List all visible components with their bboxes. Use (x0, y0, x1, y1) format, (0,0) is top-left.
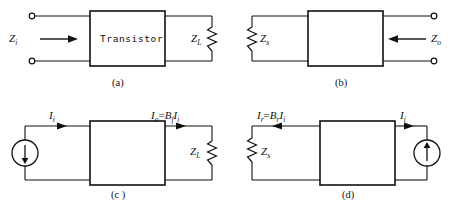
terminal-output-bottom (431, 58, 437, 64)
panel-b-schematic (232, 0, 463, 108)
terminal-input-top (29, 13, 35, 19)
two-port-box (90, 121, 165, 185)
resistor-zs-symbol (248, 27, 257, 51)
panel-b: Zs Zo (b) (232, 0, 463, 108)
label-ii: Ii (400, 110, 406, 124)
label-io-expression: Io=BfIi (151, 110, 179, 124)
panel-a-caption: (a) (112, 78, 124, 89)
arrow-zi (40, 35, 78, 43)
panel-a: Zi ZL Transistor (a) (0, 0, 231, 108)
label-zs: Zs (261, 146, 270, 160)
resistor-zl-symbol (208, 141, 217, 165)
terminal-output-top (431, 13, 437, 19)
label-zs: Zs (260, 33, 269, 47)
arrow-zo (388, 35, 426, 43)
terminal-input-bottom (29, 58, 35, 64)
arrow-ii (57, 123, 67, 130)
two-port-box (308, 11, 383, 66)
transistor-two-port-figure: Zi ZL Transistor (a) (0, 0, 463, 216)
panel-c-caption: (c ) (111, 190, 125, 201)
resistor-zs-symbol (248, 138, 257, 162)
label-zo: Zo (431, 33, 441, 47)
label-zl: ZL (191, 33, 201, 47)
panel-a-schematic (0, 0, 231, 108)
resistor-zl-symbol (208, 27, 217, 51)
label-ir-expression: Ir=BrIi (257, 110, 285, 124)
transistor-box-label: Transistor (100, 34, 163, 44)
panel-c: Ii Io=BfIi ZL (c ) (0, 108, 231, 216)
panel-d-caption: (d) (342, 190, 354, 201)
label-zi: Zi (9, 33, 17, 47)
label-zl: ZL (190, 146, 200, 160)
panel-d: Ir=BrIi Ii Zs (d) (232, 108, 463, 216)
two-port-box (320, 121, 395, 185)
label-ii: Ii (49, 110, 55, 124)
panel-b-caption: (b) (335, 78, 347, 89)
